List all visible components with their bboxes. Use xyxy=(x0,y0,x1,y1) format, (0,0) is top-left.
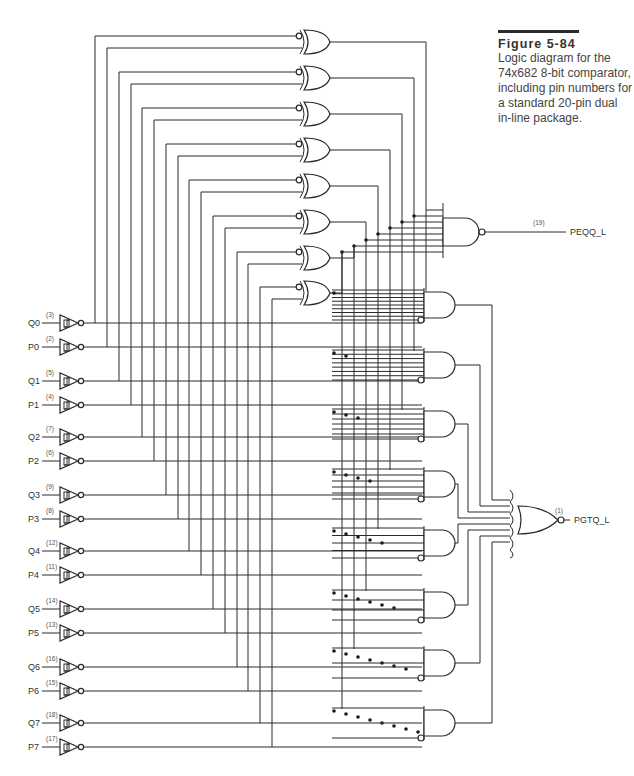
input-label-p3: P3 xyxy=(28,514,39,524)
pin-number: (4) xyxy=(46,393,54,401)
caption-line: Logic diagram for the xyxy=(498,51,634,66)
buffer-inversion-bubble xyxy=(78,572,83,577)
p-riser xyxy=(84,228,302,633)
and-gate xyxy=(424,292,455,318)
input-label-p6: P6 xyxy=(28,686,39,696)
junction-dot xyxy=(332,709,336,713)
junction-dot xyxy=(332,470,336,474)
buffer-inversion-bubble xyxy=(78,378,83,383)
caption-line: a standard 20-pin dual xyxy=(498,96,634,111)
xor-gate xyxy=(304,102,330,126)
pin-number: (14) xyxy=(46,597,58,605)
and-gate xyxy=(424,592,455,618)
junction-dot xyxy=(356,416,360,420)
pin-number: (11) xyxy=(46,563,57,571)
pin-number: (5) xyxy=(46,369,54,377)
pin-number: (18) xyxy=(46,711,58,719)
output-label-peqq: PEQQ_L xyxy=(570,227,606,237)
caption-line: including pin numbers for xyxy=(498,81,634,96)
and-output-wire xyxy=(455,484,510,518)
and-inverted-input-bubble xyxy=(418,675,424,681)
junction-dot xyxy=(356,597,360,601)
figure-caption: Figure 5-84 Logic diagram for the 74x682… xyxy=(498,30,634,126)
and-inverted-input-bubble xyxy=(418,436,424,442)
q-riser xyxy=(84,108,296,437)
pin-number: (6) xyxy=(46,449,54,457)
junction-dot xyxy=(356,655,360,659)
and-output-wire xyxy=(455,530,510,605)
junction-dot xyxy=(356,715,360,719)
input-label-q5: Q5 xyxy=(28,604,40,614)
junction-dot xyxy=(344,532,348,536)
junction-dot xyxy=(416,730,420,734)
junction-dot xyxy=(356,476,360,480)
nor-output-bubble xyxy=(558,517,564,523)
and-gate xyxy=(424,411,455,437)
q-riser xyxy=(84,72,296,381)
input-label-p0: P0 xyxy=(28,342,39,352)
input-label-q3: Q3 xyxy=(28,490,40,500)
p-riser xyxy=(84,84,302,405)
pin-number: (15) xyxy=(46,679,58,687)
buffer-inversion-bubble xyxy=(78,492,83,497)
junction-dot xyxy=(368,658,372,662)
buffer-inversion-bubble xyxy=(78,720,83,725)
input-label-q6: Q6 xyxy=(28,662,40,672)
xor-input-bubble xyxy=(296,69,302,75)
junction-dot xyxy=(368,538,372,542)
pin-number: (16) xyxy=(46,655,58,663)
p-riser xyxy=(84,120,302,461)
and-output-wire xyxy=(455,424,510,512)
buffer-inversion-bubble xyxy=(78,320,83,325)
junction-dot xyxy=(332,649,336,653)
buffer-inversion-bubble xyxy=(78,516,83,521)
junction-dot xyxy=(368,718,372,722)
p-riser xyxy=(84,156,302,519)
pin-number: (8) xyxy=(46,507,54,515)
p-riser xyxy=(84,299,302,747)
buffer-inversion-bubble xyxy=(78,630,83,635)
input-label-q0: Q0 xyxy=(28,318,40,328)
caption-line: 74x682 8-bit comparator, xyxy=(498,66,634,81)
xor-gate xyxy=(304,281,330,305)
q-riser xyxy=(84,144,296,495)
junction-dot xyxy=(356,535,360,539)
junction-dot xyxy=(404,727,408,731)
input-label-q4: Q4 xyxy=(28,546,40,556)
and-inverted-input-bubble xyxy=(418,317,424,323)
junction-dot xyxy=(380,541,384,545)
xor-input-bubble xyxy=(296,213,302,219)
buffer-inversion-bubble xyxy=(78,688,83,693)
buffer-inversion-bubble xyxy=(78,606,83,611)
figure-title: Figure 5-84 xyxy=(498,37,634,51)
and-output-wire xyxy=(455,305,510,500)
caption-line: in-line package. xyxy=(498,111,634,126)
xor-input-bubble xyxy=(296,105,302,111)
and-output-wire xyxy=(455,536,510,663)
and-output-wire xyxy=(455,524,510,543)
xor-input-bubble xyxy=(296,177,302,183)
q-riser xyxy=(84,252,296,667)
junction-dot xyxy=(404,667,408,671)
and-output-wire xyxy=(455,542,510,723)
nand-output-bubble xyxy=(479,229,485,235)
buffer-inversion-bubble xyxy=(78,344,83,349)
caption-rule xyxy=(498,30,579,33)
and-inverted-input-bubble xyxy=(418,555,424,561)
xor-gate xyxy=(304,66,330,90)
junction-dot xyxy=(344,354,348,358)
junction-dot xyxy=(344,712,348,716)
xor-input-bubble xyxy=(296,284,302,290)
junction-dot xyxy=(392,724,396,728)
and-gate xyxy=(424,471,455,497)
junction-dot xyxy=(344,413,348,417)
junction-dot xyxy=(380,661,384,665)
junction-dot xyxy=(332,351,336,355)
xor-input-bubble xyxy=(296,249,302,255)
input-label-q1: Q1 xyxy=(28,376,40,386)
and-gate xyxy=(424,352,455,378)
and-inverted-input-bubble xyxy=(418,496,424,502)
input-label-p1: P1 xyxy=(28,400,39,410)
nor-gate xyxy=(518,506,558,534)
xor-gate xyxy=(304,246,330,270)
